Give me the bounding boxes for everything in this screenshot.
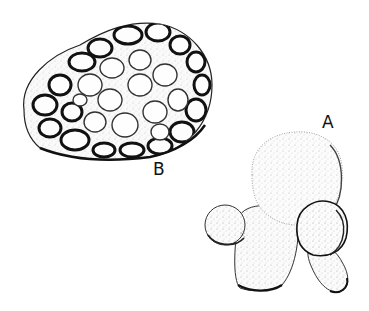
specimen-b-label: B <box>153 161 165 178</box>
specimen-a <box>205 132 348 292</box>
illustration-canvas <box>0 0 369 311</box>
specimen-b <box>20 20 215 165</box>
specimen-a-label: A <box>322 114 334 131</box>
